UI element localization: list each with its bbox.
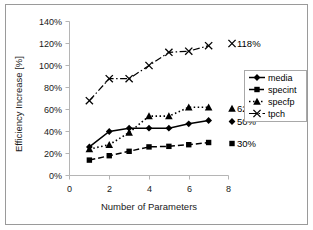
x-tick-label: 0: [67, 184, 72, 194]
data-point-square: [87, 157, 92, 162]
data-point-square: [229, 141, 234, 146]
data-point-cross: [205, 42, 212, 49]
data-point-square: [206, 140, 211, 145]
y-tick-label: 140%: [39, 17, 62, 27]
chart-figure: 140% 120% 100% 80% 60% 40% 20% 0% 0 2 4 …: [0, 0, 313, 230]
y-tick-label: 20%: [44, 149, 62, 159]
series-specint: [87, 140, 212, 163]
x-tick-label: 2: [107, 184, 112, 194]
data-point-cross: [228, 40, 235, 47]
x-axis-title: Number of Parameters: [101, 201, 197, 212]
data-point-triangle: [165, 112, 173, 119]
x-tick-label: 8: [226, 184, 231, 194]
data-point-triangle: [228, 105, 236, 112]
endpoint-label-specint: 30%: [237, 138, 257, 149]
data-point-square: [126, 149, 131, 154]
data-point-square: [254, 87, 259, 92]
data-point-diamond: [165, 125, 172, 132]
legend[interactable]: media specint specfp tpch: [245, 71, 307, 122]
x-tick-label: 4: [147, 184, 152, 194]
series-tpch: [86, 42, 212, 104]
data-point-square: [186, 142, 191, 147]
endpoint-label-tpch: 118%: [237, 38, 261, 49]
data-series-layer: [86, 40, 236, 163]
legend-label-specint: specint: [268, 85, 297, 95]
data-point-cross: [145, 62, 152, 69]
x-axis-ticks: [70, 176, 229, 180]
y-axis-title: Efficiency Increase [%]: [13, 56, 24, 152]
x-axis-tick-labels: 0 2 4 6 8: [67, 184, 231, 194]
data-point-diamond: [146, 125, 153, 132]
y-tick-label: 0%: [49, 171, 62, 181]
y-tick-label: 120%: [39, 39, 62, 49]
y-tick-label: 40%: [44, 127, 62, 137]
x-tick-label: 6: [187, 184, 192, 194]
legend-label-specfp: specfp: [268, 97, 295, 107]
line-chart: 140% 120% 100% 80% 60% 40% 20% 0% 0 2 4 …: [0, 0, 313, 230]
data-point-diamond: [229, 118, 236, 125]
y-axis-tick-labels: 140% 120% 100% 80% 60% 40% 20% 0%: [39, 17, 62, 181]
data-point-triangle: [125, 129, 133, 136]
legend-label-tpch: tpch: [268, 109, 285, 119]
y-tick-label: 80%: [44, 83, 62, 93]
y-axis-ticks: [66, 22, 70, 176]
data-point-triangle: [185, 104, 193, 111]
data-point-square: [107, 153, 112, 158]
data-point-diamond: [205, 117, 212, 124]
data-point-square: [146, 144, 151, 149]
y-tick-label: 100%: [39, 61, 62, 71]
data-point-square: [166, 144, 171, 149]
data-point-diamond: [185, 120, 192, 127]
data-point-triangle: [105, 141, 113, 148]
data-point-cross: [86, 97, 93, 104]
y-tick-label: 60%: [44, 105, 62, 115]
legend-label-media: media: [268, 73, 293, 83]
